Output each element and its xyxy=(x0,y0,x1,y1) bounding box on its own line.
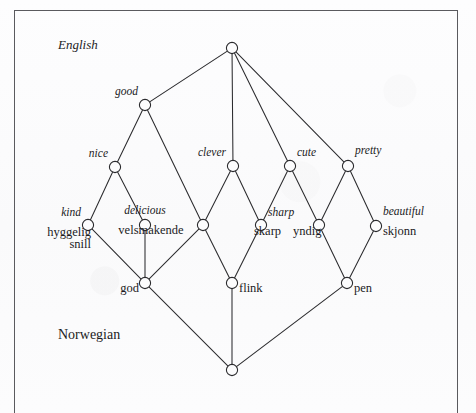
label-clever: clever xyxy=(198,146,226,158)
label-velsmakende: velsmakende xyxy=(118,224,183,237)
label-good: good xyxy=(115,85,138,97)
node-bottom[interactable] xyxy=(226,364,237,375)
node-pretty[interactable] xyxy=(342,160,353,171)
node-nice[interactable] xyxy=(109,161,120,172)
node-skjonn[interactable] xyxy=(370,220,381,231)
edge-good-nice xyxy=(117,110,142,162)
label-sharp: sharp xyxy=(268,206,294,218)
edge-clever-midleft xyxy=(206,171,231,220)
label-beautiful: beautiful xyxy=(383,205,424,217)
edge-yndig-pen xyxy=(321,230,344,278)
edge-nice-kind xyxy=(90,172,112,220)
label-kind: kind xyxy=(61,206,81,218)
label-nice: nice xyxy=(89,147,108,159)
edge-top-cute xyxy=(234,53,287,161)
label-god: god xyxy=(120,282,139,295)
label-skarp: skarp xyxy=(254,225,281,238)
edge-pretty-yndig xyxy=(321,171,345,220)
edge-pen-bottom xyxy=(236,286,342,366)
edge-top-clever xyxy=(232,54,233,161)
edge-cute-yndig xyxy=(292,171,316,220)
norwegian-tag: Norwegian xyxy=(58,327,120,343)
figure-page: goodniceclevercuteprettykinddelicioussha… xyxy=(0,0,476,413)
label-cute: cute xyxy=(297,146,316,158)
node-pen[interactable] xyxy=(341,277,352,288)
edge-top-good xyxy=(150,51,228,102)
edge-pretty-skjonn xyxy=(350,171,373,221)
edge-midleft-flink xyxy=(206,230,230,278)
label-flink: flink xyxy=(239,282,263,295)
label-snill: snill xyxy=(69,238,91,251)
node-flink[interactable] xyxy=(226,277,237,288)
edge-clever-skarp xyxy=(235,171,258,220)
edge-god-bottom xyxy=(149,287,228,366)
label-delicious: delicious xyxy=(124,204,166,216)
node-mid-left[interactable] xyxy=(197,219,208,230)
node-good[interactable] xyxy=(139,99,150,110)
node-god[interactable] xyxy=(139,277,150,288)
node-clever[interactable] xyxy=(227,160,238,171)
node-cute[interactable] xyxy=(284,160,295,171)
english-tag: English xyxy=(58,37,98,53)
label-yndig: yndig xyxy=(293,225,321,238)
label-pretty: pretty xyxy=(355,144,381,156)
label-skjonn: skjonn xyxy=(383,225,416,238)
edge-skjonn-pen xyxy=(350,231,374,278)
label-pen: pen xyxy=(354,282,372,295)
node-top[interactable] xyxy=(226,42,237,53)
edge-top-pretty xyxy=(236,52,344,162)
